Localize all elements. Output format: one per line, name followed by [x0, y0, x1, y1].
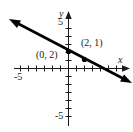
x-axis-arrow-icon — [122, 65, 130, 71]
point-marker-0-2 — [66, 49, 71, 54]
x-axis — [14, 65, 130, 71]
x-axis-label: x — [118, 55, 122, 65]
graph-figure: y x 5 -5 -5 (0, 2) (2, 1) — [0, 0, 133, 132]
coordinate-plane-svg — [0, 0, 133, 132]
line-arrow-left-icon — [9, 19, 21, 28]
point-label-2-1: (2, 1) — [81, 38, 103, 48]
line-arrow-right-icon — [120, 75, 132, 84]
point-marker-2-1 — [82, 57, 87, 62]
y-tick-label-neg5: -5 — [55, 111, 63, 121]
point-label-0-2: (0, 2) — [36, 50, 58, 60]
y-axis-arrow-icon — [65, 11, 71, 19]
y-tick-label-5: 5 — [58, 17, 63, 27]
x-tick-label-neg5: -5 — [14, 72, 22, 82]
